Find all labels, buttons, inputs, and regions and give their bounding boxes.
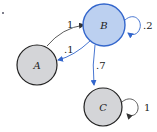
edge-a-to-b: 1 — [47, 19, 84, 46]
stray-dot — [2, 12, 4, 14]
node-c: C — [84, 88, 122, 126]
edge-label-b-to-b: .2 — [143, 20, 153, 31]
edge-label-a-to-b: 1 — [67, 19, 73, 30]
self-loop-c: 1 — [122, 99, 150, 116]
node-label-b: B — [99, 20, 107, 31]
self-loop-b: .2 — [125, 17, 153, 35]
edge-label-b-to-c: .7 — [96, 60, 106, 71]
node-label-c: C — [99, 102, 107, 113]
node-a: A — [17, 45, 57, 85]
edge-b-to-c: .7 — [93, 45, 105, 85]
edge-label-b-to-a: .1 — [64, 44, 74, 55]
node-label-a: A — [32, 60, 40, 71]
edge-b-to-a: .1 — [58, 41, 90, 60]
node-b: B — [83, 4, 125, 46]
state-diagram: 1 .1 .7 A B C .2 1 — [0, 0, 157, 132]
edge-label-c-to-c: 1 — [144, 102, 150, 113]
